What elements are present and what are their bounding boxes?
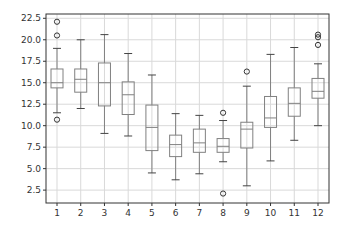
grid-lines	[46, 14, 329, 203]
y-tick-label: 17.5	[21, 56, 41, 66]
y-tick-label: 20.0	[21, 35, 41, 45]
x-tick-label: 7	[196, 208, 202, 218]
box-4	[122, 54, 134, 136]
y-tick-label: 10.0	[21, 121, 41, 131]
y-tick-label: 12.5	[21, 99, 41, 109]
y-axis: 2.55.07.510.012.515.017.520.022.5	[21, 13, 46, 195]
y-tick-label: 2.5	[27, 185, 41, 195]
x-tick-label: 10	[265, 208, 277, 218]
x-axis: 123456789101112	[54, 203, 324, 218]
x-tick-label: 3	[102, 208, 108, 218]
x-tick-label: 6	[173, 208, 179, 218]
y-tick-label: 5.0	[27, 164, 42, 174]
x-tick-label: 5	[149, 208, 155, 218]
x-tick-label: 1	[54, 208, 60, 218]
y-tick-label: 15.0	[21, 78, 41, 88]
x-tick-label: 9	[244, 208, 250, 218]
x-tick-label: 11	[289, 208, 300, 218]
x-tick-label: 8	[220, 208, 226, 218]
y-tick-label: 22.5	[21, 13, 41, 23]
box-plot-chart: 2.55.07.510.012.515.017.520.022.5 123456…	[0, 0, 347, 228]
x-tick-label: 4	[125, 208, 131, 218]
plot-frame	[46, 14, 329, 203]
x-tick-label: 12	[312, 208, 323, 218]
box-series	[51, 19, 324, 196]
y-tick-label: 7.5	[27, 142, 41, 152]
x-tick-label: 2	[78, 208, 84, 218]
